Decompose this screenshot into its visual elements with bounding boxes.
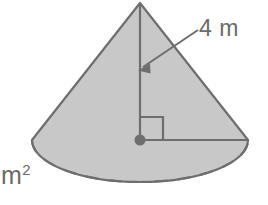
area-unit-label: m2 [1,163,31,188]
area-unit-base: m [1,161,22,189]
base-center-dot [135,135,146,146]
area-unit-exponent: 2 [22,161,31,178]
height-dimension-label: 4 m [199,17,239,40]
cone-figure: 4 m m2 [0,0,268,205]
